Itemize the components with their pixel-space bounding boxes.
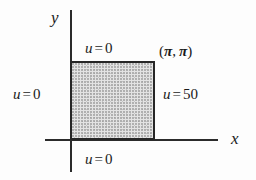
close-paren: ) [187,43,192,59]
bc-left-operator: = [21,86,33,102]
bc-right-operator: = [171,86,183,102]
bc-top-variable: u [85,40,93,56]
bc-right-value: 50 [183,86,198,102]
bc-bottom-variable: u [85,151,93,167]
boundary-condition-left: u=0 [13,87,40,102]
bc-bottom-operator: = [93,151,105,167]
pi-symbol-x: π [164,43,172,59]
boundary-condition-right: u=50 [163,87,198,102]
bc-left-variable: u [13,86,21,102]
y-axis-label: y [51,9,59,26]
coordinate-comma: , [172,43,179,59]
boundary-condition-top: u=0 [85,41,112,56]
bc-right-variable: u [163,86,171,102]
bc-top-value: 0 [105,40,113,56]
x-axis-label: x [231,130,239,147]
pi-symbol-y: π [179,43,187,59]
bc-left-value: 0 [33,86,41,102]
boundary-value-diagram: y x (π,π) u=0 u=0 u=50 u=0 [0,0,256,180]
bc-bottom-value: 0 [105,151,113,167]
corner-coordinate-label: (π,π) [159,44,192,59]
boundary-condition-bottom: u=0 [85,152,112,167]
shaded-square-region [70,61,155,140]
bc-top-operator: = [93,40,105,56]
